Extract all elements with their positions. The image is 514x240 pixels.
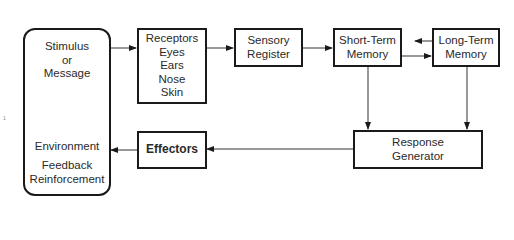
effectors-label: Effectors [146,143,198,157]
response-label: Response [392,136,444,150]
eyes-label: Eyes [159,46,185,60]
margin-mark: 1 [3,115,6,121]
short-term-label: Short-Term [339,34,396,48]
memory-label: Memory [347,48,389,62]
environment-box: Stimulus or Message Environment Feedback… [23,28,111,196]
register-label: Register [247,48,290,62]
stimulus-label: Stimulus [44,40,91,54]
feedback-label: Feedback [25,159,109,173]
short-term-memory-box: Short-Term Memory [333,28,402,67]
or-label: or [44,54,91,68]
message-label: Message [44,67,91,81]
effectors-box: Effectors [137,131,207,169]
generator-label: Generator [392,150,444,164]
nose-label: Nose [159,73,186,87]
skin-label: Skin [161,86,183,100]
response-generator-box: Response Generator [353,130,483,169]
stimulus-text: Stimulus or Message [44,40,91,81]
environment-text: Environment Feedback Reinforcement [25,140,109,187]
reinforcement-label: Reinforcement [25,173,109,187]
receptors-label: Receptors [146,32,198,46]
long-term-label: Long-Term [439,34,494,48]
environment-label: Environment [25,140,109,154]
receptors-box: Receptors Eyes Ears Nose Skin [137,28,207,104]
sensory-label: Sensory [247,34,289,48]
ears-label: Ears [160,59,184,73]
memory-label: Memory [445,48,487,62]
sensory-register-box: Sensory Register [234,28,303,67]
long-term-memory-box: Long-Term Memory [432,28,500,67]
